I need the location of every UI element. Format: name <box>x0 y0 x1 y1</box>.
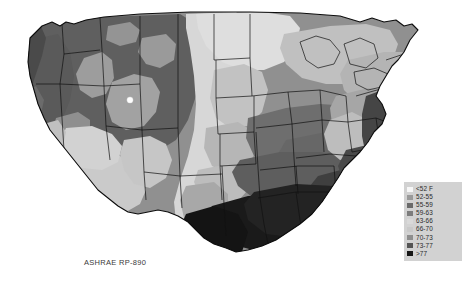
legend-item: 66-70 <box>407 225 460 233</box>
legend-label-70-73: 70-73 <box>416 234 433 242</box>
legend-swatch-73-77 <box>407 243 413 248</box>
figure-caption: ASHRAE RP-890 <box>84 258 146 267</box>
legend-label-lt52: <52 F <box>416 185 433 193</box>
figure-canvas: ASHRAE RP-890 <52 F 52-55 55-59 59-63 63… <box>0 0 471 291</box>
legend-swatch-59-63 <box>407 211 413 216</box>
region-south-texas <box>180 206 248 262</box>
legend-item: <52 F <box>407 185 460 193</box>
legend-swatch-70-73 <box>407 235 413 240</box>
legend-item: 59-63 <box>407 209 460 217</box>
legend-item: 70-73 <box>407 234 460 242</box>
region-socal-light <box>32 120 66 158</box>
legend-label-66-70: 66-70 <box>416 225 433 233</box>
legend-item: >77 <box>407 250 460 258</box>
legend-swatch-63-66 <box>407 219 413 224</box>
legend-item: 55-59 <box>407 201 460 209</box>
legend-swatch-52-55 <box>407 195 413 200</box>
legend-item: 63-66 <box>407 217 460 225</box>
legend-label-63-66: 63-66 <box>416 217 433 225</box>
region-florida-peninsula <box>332 194 388 272</box>
region-carolinas <box>338 142 400 194</box>
legend-label-52-55: 52-55 <box>416 193 433 201</box>
region-mid-atlantic-coast <box>362 88 410 162</box>
legend-label-gt77: >77 <box>416 250 427 258</box>
temperature-legend: <52 F 52-55 55-59 59-63 63-66 66-70 70-7… <box>404 182 462 261</box>
legend-label-59-63: 59-63 <box>416 209 433 217</box>
legend-item: 52-55 <box>407 193 460 201</box>
map-svg <box>0 0 471 291</box>
legend-swatch-66-70 <box>407 227 413 232</box>
legend-swatch-gt77 <box>407 251 413 256</box>
legend-swatch-lt52 <box>407 187 413 192</box>
map-regions <box>0 0 471 291</box>
legend-label-55-59: 55-59 <box>416 201 433 209</box>
legend-label-73-77: 73-77 <box>416 242 433 250</box>
us-temperature-map <box>0 0 471 291</box>
legend-swatch-55-59 <box>407 203 413 208</box>
legend-item: 73-77 <box>407 242 460 250</box>
